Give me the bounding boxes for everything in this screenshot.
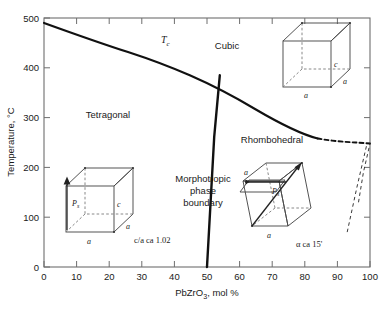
y-tick-label: 200	[23, 162, 39, 173]
x-tick-label: 70	[267, 271, 278, 282]
rhombohedral-unit-cell-inset: a Ps a	[240, 162, 311, 240]
y-tick-label: 400	[23, 62, 39, 73]
phase-diagram-figure: 500 400 300 200 100 0 Temperature, °C 0	[0, 0, 392, 309]
x-tick-label: 30	[137, 271, 148, 282]
tetragonal-polarization-arrow	[64, 177, 71, 231]
x-tick-label: 100	[362, 271, 378, 282]
region-label-cubic: Cubic	[215, 40, 240, 51]
y-axis-title: Temperature, °C	[5, 107, 16, 176]
y-tick-label: 0	[34, 262, 39, 273]
antiferroelectric-boundary-left-dashed	[347, 145, 367, 232]
x-tick-label: 20	[104, 271, 115, 282]
rhombohedral-angle-note: α ca 15'	[296, 239, 323, 249]
mpb-label-line1: Morphotropic	[175, 173, 231, 184]
tetragonal-unit-cell-inset: Ps c a a	[64, 167, 134, 246]
rhombohedral-ps-sub: s	[277, 191, 280, 197]
rhombohedral-cell-label-a-top: a	[244, 168, 248, 177]
rhombohedral-cell-label-a-front: a	[267, 231, 271, 240]
tc-curve	[44, 23, 318, 139]
tc-label-sub: c	[167, 40, 171, 48]
x-axis-ticks-top	[77, 18, 338, 24]
tetragonal-cell-label-c: c	[117, 200, 121, 209]
x-tick-label: 10	[71, 271, 82, 282]
x-tick-label: 40	[169, 271, 180, 282]
x-axis-title: PbZrO3, mol %	[175, 287, 239, 301]
y-tick-label: 500	[23, 13, 39, 24]
y-axis-ticks	[44, 18, 50, 267]
tetragonal-ps-sub: s	[77, 203, 80, 209]
y-tick-label: 100	[23, 212, 39, 223]
cubic-unit-cell-inset: c a a	[283, 22, 351, 100]
plot-frame	[44, 18, 370, 267]
mpb-label-line2: phase	[190, 185, 216, 196]
x-axis-title-pre: PbZrO	[175, 287, 203, 298]
region-label-tetragonal: Tetragonal	[86, 109, 130, 120]
y-tick-label: 300	[23, 112, 39, 123]
cubic-cell-label-a-front: a	[304, 91, 308, 100]
x-axis-title-post: , mol %	[207, 287, 239, 298]
tc-curve-dashed-extension	[318, 139, 370, 144]
tc-curve-label: Tc	[161, 34, 171, 48]
x-tick-labels: 0 10 20 30 40 50 60 70 80 90 100	[41, 271, 378, 282]
morphotropic-phase-boundary-label: Morphotropic phase boundary	[175, 173, 231, 208]
cubic-cell-label-c: c	[334, 60, 338, 69]
tetragonal-cell-label-ps: Ps	[71, 199, 80, 209]
x-tick-label: 60	[234, 271, 245, 282]
x-tick-label: 90	[332, 271, 343, 282]
x-tick-label: 50	[202, 271, 213, 282]
tetragonal-cell-label-a-front: a	[87, 237, 91, 246]
x-tick-label: 0	[41, 271, 46, 282]
tetragonal-cell-label-a-right: a	[126, 222, 130, 231]
tetragonal-ratio-note: c/a ca 1.02	[134, 235, 171, 245]
morphotropic-phase-boundary-line	[207, 75, 220, 267]
x-tick-label: 80	[300, 271, 311, 282]
region-label-rhombohedral: Rhombohedral	[241, 134, 303, 145]
mpb-label-line3: boundary	[183, 197, 223, 208]
y-tick-labels: 500 400 300 200 100 0	[23, 13, 39, 273]
cubic-cell-label-a-right: a	[343, 77, 347, 86]
